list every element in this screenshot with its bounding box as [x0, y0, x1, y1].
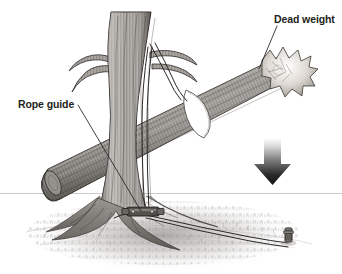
downward-force-arrow [254, 138, 291, 185]
dead-weight-log [41, 56, 296, 201]
rope-guide-clamp [122, 206, 164, 216]
illustration-canvas: Dead weight Rope guide [0, 0, 342, 274]
label-dead-weight: Dead weight [274, 14, 335, 25]
splintered-log-end [262, 47, 318, 97]
label-rope-guide: Rope guide [18, 99, 74, 110]
illustration-artwork [0, 0, 342, 274]
